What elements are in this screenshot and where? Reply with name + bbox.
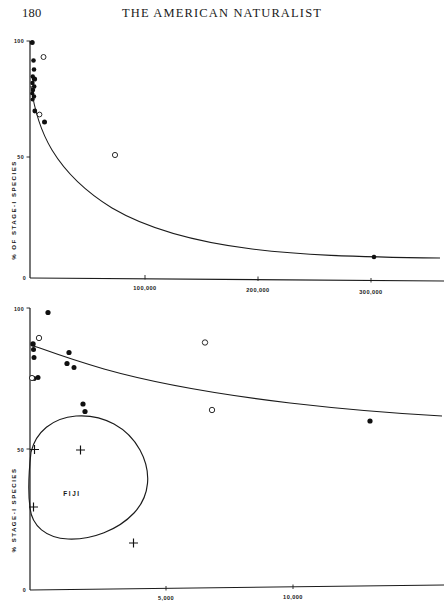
data-point (29, 375, 34, 380)
data-point (202, 340, 207, 345)
top-xtick-label-200000: 200,000 (246, 287, 269, 293)
running-head: THE AMERICAN NATURALIST (0, 6, 444, 21)
data-point (31, 58, 36, 63)
fiji-envelope (29, 416, 148, 539)
data-point (64, 361, 69, 366)
data-point (32, 67, 37, 72)
top-series-open (37, 55, 118, 158)
data-point (66, 350, 71, 355)
data-point (367, 418, 372, 423)
bottom-y-axis-title: % STAGE-I SPECIES (10, 468, 17, 553)
top-ytick-label-100: 100 (14, 38, 24, 44)
data-point (72, 365, 77, 370)
data-point (31, 347, 36, 352)
data-point (36, 335, 41, 340)
top-origin-label: 0 (23, 275, 26, 281)
top-x-axis (30, 278, 444, 281)
data-point (42, 120, 47, 125)
top-fit-curve (31, 86, 440, 258)
bottom-xtick-label-5000: 5,000 (158, 595, 174, 601)
top-xtick-label-100000: 100,000 (133, 285, 156, 291)
bottom-xtick-label-10000: 10,000 (283, 594, 303, 600)
bottom-chart-svg: 100 50 0 5,000 10,000 % STAGE-I SPECIES … (0, 300, 444, 611)
bottom-x-axis (30, 585, 444, 590)
top-chart-svg: 100 50 0 100,000 200,000 300,000 % OF ST… (0, 30, 444, 300)
bottom-scatter-figure: 100 50 0 5,000 10,000 % STAGE-I SPECIES … (0, 300, 444, 611)
data-point (30, 40, 35, 45)
data-point (209, 407, 214, 412)
bottom-ytick-label-50: 50 (17, 447, 24, 453)
bottom-origin-label: 0 (23, 587, 26, 593)
data-point (30, 97, 34, 101)
bottom-ytick-label-100: 100 (14, 306, 24, 312)
top-scatter-figure: 100 50 0 100,000 200,000 300,000 % OF ST… (0, 30, 444, 300)
data-point (36, 375, 41, 380)
page-canvas: 180 THE AMERICAN NATURALIST 100 50 0 100… (0, 0, 444, 611)
data-point (80, 401, 85, 406)
data-point (372, 255, 377, 260)
bottom-fit-curve (31, 345, 442, 416)
data-point (76, 446, 85, 455)
top-y-axis-title: % OF STAGE-I SPECIES (10, 160, 17, 260)
data-point (82, 409, 87, 414)
data-point (32, 355, 37, 360)
top-xtick-label-300000: 300,000 (359, 289, 382, 295)
top-ytick-label-50: 50 (17, 154, 24, 160)
data-point (129, 539, 138, 548)
data-point (112, 152, 117, 157)
data-point (30, 341, 35, 346)
data-point (45, 310, 50, 315)
data-point (41, 55, 46, 60)
data-point (37, 112, 42, 117)
data-point (32, 109, 37, 114)
top-series-filled (30, 40, 377, 259)
fiji-region-label: FIJI (63, 490, 80, 497)
